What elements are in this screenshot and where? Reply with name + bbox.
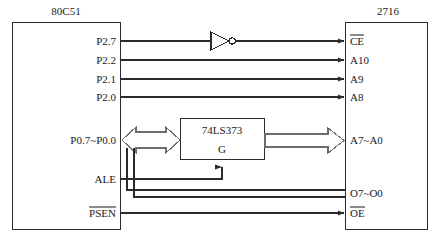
latch-373-gate-label: G — [218, 144, 226, 155]
pin-label-a7-a0: A7~A0 — [350, 135, 383, 146]
pin-label-p2-1: P2.1 — [96, 74, 116, 85]
pin-label-p2-0: P2.0 — [96, 92, 116, 103]
pin-label-ce: CE — [350, 36, 364, 47]
circuit-diagram: 80C51 2716 P2.7 P2.2 P2.1 P2.0 P0.7~P0.0… — [0, 0, 440, 242]
pin-label-psen-text: PSEN — [89, 208, 116, 219]
schematic-canvas — [0, 0, 440, 242]
pin-label-p2-2: P2.2 — [96, 55, 116, 66]
pin-label-a10: A10 — [350, 55, 369, 66]
pin-label-ale: ALE — [95, 174, 116, 185]
pin-label-o7-o0: O7~O0 — [350, 188, 383, 199]
bus-p0-latch — [122, 127, 180, 153]
pin-label-psen: PSEN — [89, 208, 116, 219]
pin-label-p0-bus: P0.7~P0.0 — [70, 135, 116, 146]
wire-ale-g — [120, 167, 222, 179]
inverter-bubble — [229, 38, 235, 44]
pin-label-oe: OE — [350, 208, 365, 219]
pin-label-a9: A9 — [350, 74, 363, 85]
pin-label-a8: A8 — [350, 92, 363, 103]
bus-latch-a7a0 — [265, 128, 344, 153]
pin-label-oe-text: OE — [350, 208, 365, 219]
inverter-triangle — [211, 32, 229, 50]
pin-label-ce-text: CE — [350, 36, 364, 47]
pin-label-p2-7: P2.7 — [96, 36, 116, 47]
latch-373-title: 74LS373 — [202, 125, 242, 136]
chip-title-2716: 2716 — [377, 6, 399, 17]
chip-title-80c51: 80C51 — [51, 6, 80, 17]
